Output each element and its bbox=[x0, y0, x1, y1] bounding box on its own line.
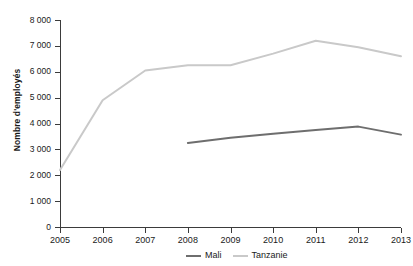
x-axis-tick bbox=[273, 228, 274, 233]
series-line-tanzanie bbox=[60, 41, 401, 170]
y-axis-tick-label: 7 000 bbox=[3, 41, 51, 50]
legend-swatch-icon bbox=[186, 255, 201, 257]
legend-label: Mali bbox=[205, 251, 222, 260]
x-axis-tick-label: 2013 bbox=[378, 236, 413, 245]
x-axis-tick-label: 2009 bbox=[208, 236, 254, 245]
x-axis-tick bbox=[316, 228, 317, 233]
x-axis-tick-label: 2008 bbox=[165, 236, 211, 245]
x-axis-tick-label: 2005 bbox=[37, 236, 83, 245]
y-axis-tick-label: 4 000 bbox=[3, 119, 51, 128]
x-axis-tick-label: 2012 bbox=[335, 236, 381, 245]
x-axis-tick bbox=[358, 228, 359, 233]
y-axis-title: Nombre d'employés bbox=[12, 35, 22, 185]
y-axis-tick-label: 8 000 bbox=[3, 16, 51, 25]
x-axis-tick bbox=[60, 228, 61, 233]
series-line-mali bbox=[188, 127, 401, 143]
x-axis-tick-label: 2010 bbox=[250, 236, 296, 245]
y-axis-tick-label: 5 000 bbox=[3, 93, 51, 102]
legend-swatch-icon bbox=[233, 255, 248, 257]
series-plot-area bbox=[60, 20, 401, 227]
y-axis-tick-label: 1 000 bbox=[3, 197, 51, 206]
chart-legend: MaliTanzanie bbox=[186, 251, 288, 260]
x-axis-tick-label: 2006 bbox=[80, 236, 126, 245]
x-axis-tick bbox=[188, 228, 189, 233]
x-axis-tick bbox=[231, 228, 232, 233]
y-axis-tick-label: 6 000 bbox=[3, 67, 51, 76]
legend-label: Tanzanie bbox=[252, 251, 288, 260]
x-axis-tick bbox=[103, 228, 104, 233]
y-axis-tick-label: 0 bbox=[3, 223, 51, 232]
x-axis-tick-label: 2011 bbox=[293, 236, 339, 245]
x-axis-tick bbox=[145, 228, 146, 233]
line-chart: Nombre d'employés 01 0002 0003 0004 0005… bbox=[0, 0, 413, 266]
legend-item-tanzanie[interactable]: Tanzanie bbox=[233, 251, 288, 260]
x-axis-tick bbox=[401, 228, 402, 233]
y-axis-tick-label: 3 000 bbox=[3, 145, 51, 154]
y-axis-tick-label: 2 000 bbox=[3, 171, 51, 180]
legend-item-mali[interactable]: Mali bbox=[186, 251, 222, 260]
x-axis-tick-label: 2007 bbox=[122, 236, 168, 245]
